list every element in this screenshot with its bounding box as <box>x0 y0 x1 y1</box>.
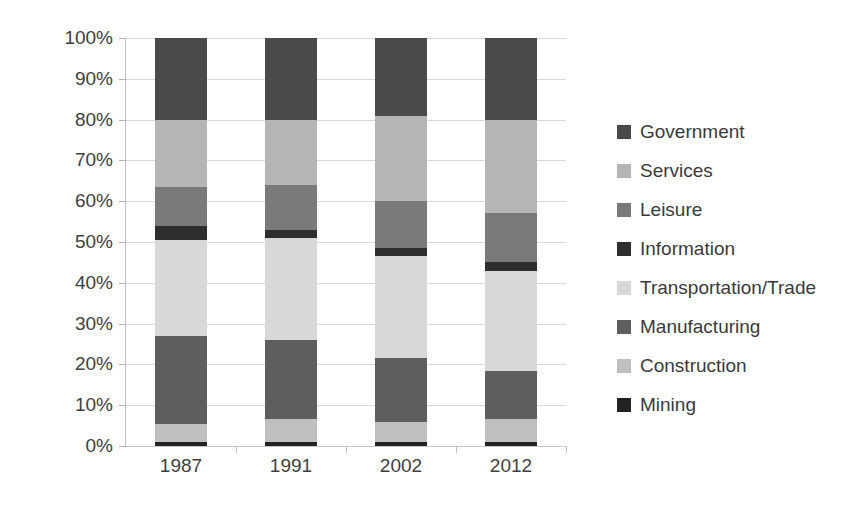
x-axis-tick-label: 2012 <box>451 455 571 477</box>
legend-label: Manufacturing <box>640 316 760 338</box>
y-axis-tick-labels: 0%10%20%30%40%50%60%70%80%90%100% <box>51 0 113 505</box>
y-axis-tick <box>119 201 126 202</box>
bar-segment-leisure[interactable] <box>375 201 427 248</box>
x-axis-tick-label: 1987 <box>121 455 241 477</box>
legend-label: Services <box>640 160 713 182</box>
y-axis-tick <box>119 120 126 121</box>
bar-segment-government[interactable] <box>485 38 537 120</box>
bar-segment-leisure[interactable] <box>485 213 537 262</box>
bar-segment-construction[interactable] <box>155 424 207 442</box>
legend-swatch-icon <box>617 398 631 412</box>
bar-segment-mining[interactable] <box>375 442 427 446</box>
bar-segment-services[interactable] <box>485 120 537 214</box>
legend-swatch-icon <box>617 281 631 295</box>
bar-segment-leisure[interactable] <box>155 187 207 226</box>
x-axis-tick-label: 1991 <box>231 455 351 477</box>
y-axis-tick <box>119 446 126 447</box>
legend-item-transportation-trade[interactable]: Transportation/Trade <box>617 268 862 307</box>
y-axis-tick-label: 70% <box>51 150 113 169</box>
bar-segment-services[interactable] <box>375 116 427 202</box>
bar-segment-services[interactable] <box>265 120 317 185</box>
bar-segment-transportation-trade[interactable] <box>155 240 207 336</box>
y-axis-tick-label: 30% <box>51 314 113 333</box>
legend-item-government[interactable]: Government <box>617 112 862 151</box>
y-axis-tick-label: 20% <box>51 354 113 373</box>
stacked-bar-chart: 0%10%20%30%40%50%60%70%80%90%100% 198719… <box>0 0 865 505</box>
legend-swatch-icon <box>617 359 631 373</box>
legend-item-leisure[interactable]: Leisure <box>617 190 862 229</box>
bar-segment-manufacturing[interactable] <box>155 336 207 424</box>
stacked-bar[interactable] <box>155 38 207 446</box>
bar-segment-manufacturing[interactable] <box>375 358 427 421</box>
bar-segment-construction[interactable] <box>485 419 537 441</box>
bar-segment-construction[interactable] <box>265 419 317 441</box>
bar-segment-information[interactable] <box>155 226 207 240</box>
x-axis-tick <box>566 446 567 453</box>
legend-item-mining[interactable]: Mining <box>617 385 862 424</box>
legend-label: Mining <box>640 394 696 416</box>
y-axis-tick <box>119 242 126 243</box>
y-axis-tick-label: 50% <box>51 232 113 251</box>
bar-segment-transportation-trade[interactable] <box>265 238 317 340</box>
legend-swatch-icon <box>617 164 631 178</box>
legend-item-manufacturing[interactable]: Manufacturing <box>617 307 862 346</box>
y-axis-tick <box>119 405 126 406</box>
bar-segment-services[interactable] <box>155 120 207 187</box>
bar-segment-manufacturing[interactable] <box>265 340 317 420</box>
stacked-bar[interactable] <box>265 38 317 446</box>
y-axis-tick <box>119 364 126 365</box>
bar-segment-information[interactable] <box>265 230 317 238</box>
y-axis-tick <box>119 324 126 325</box>
bar-segment-transportation-trade[interactable] <box>375 256 427 358</box>
y-axis-tick-label: 90% <box>51 69 113 88</box>
legend-item-construction[interactable]: Construction <box>617 346 862 385</box>
y-axis-tick <box>119 38 126 39</box>
plot-area <box>126 38 566 446</box>
y-axis-tick <box>119 283 126 284</box>
bar-segment-government[interactable] <box>265 38 317 120</box>
bar-segment-information[interactable] <box>485 262 537 270</box>
y-axis-tick <box>119 160 126 161</box>
x-axis-tick <box>456 446 457 453</box>
y-axis-tick-label: 80% <box>51 110 113 129</box>
legend-swatch-icon <box>617 125 631 139</box>
legend-item-information[interactable]: Information <box>617 229 862 268</box>
bar-segment-leisure[interactable] <box>265 185 317 230</box>
y-axis-tick-label: 100% <box>51 28 113 47</box>
y-axis-tick-label: 40% <box>51 273 113 292</box>
bar-segment-government[interactable] <box>375 38 427 116</box>
bar-segment-manufacturing[interactable] <box>485 371 537 420</box>
legend-label: Construction <box>640 355 747 377</box>
legend-label: Transportation/Trade <box>640 277 816 299</box>
y-axis-tick <box>119 79 126 80</box>
bar-segment-mining[interactable] <box>485 442 537 446</box>
bar-segment-information[interactable] <box>375 248 427 256</box>
legend-swatch-icon <box>617 320 631 334</box>
legend-swatch-icon <box>617 203 631 217</box>
y-axis-tick-label: 60% <box>51 191 113 210</box>
y-axis-tick-label: 0% <box>51 436 113 455</box>
legend-item-services[interactable]: Services <box>617 151 862 190</box>
legend-swatch-icon <box>617 242 631 256</box>
bar-segment-construction[interactable] <box>375 422 427 442</box>
y-axis-tick-label: 10% <box>51 395 113 414</box>
legend-label: Leisure <box>640 199 702 221</box>
bar-segment-mining[interactable] <box>155 442 207 446</box>
stacked-bar[interactable] <box>485 38 537 446</box>
chart-legend: GovernmentServicesLeisureInformationTran… <box>617 112 862 424</box>
stacked-bar[interactable] <box>375 38 427 446</box>
x-axis-tick-label: 2002 <box>341 455 461 477</box>
x-axis-tick <box>236 446 237 453</box>
x-axis-tick <box>346 446 347 453</box>
legend-label: Government <box>640 121 745 143</box>
bar-segment-transportation-trade[interactable] <box>485 271 537 371</box>
legend-label: Information <box>640 238 735 260</box>
bar-segment-mining[interactable] <box>265 442 317 446</box>
bar-segment-government[interactable] <box>155 38 207 120</box>
